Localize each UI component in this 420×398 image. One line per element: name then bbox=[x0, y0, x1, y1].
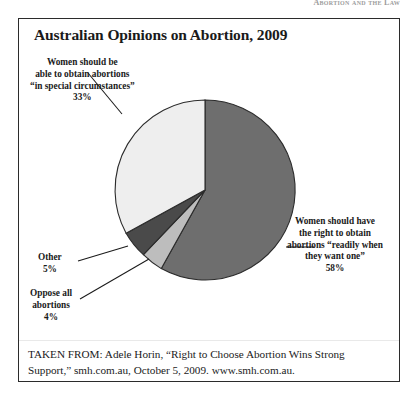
pie-label-special-line3: “in special circumstances” bbox=[30, 81, 135, 91]
pie-label-special-pct: 33% bbox=[30, 92, 135, 104]
pie-label-special-line1: Women should be bbox=[47, 57, 118, 67]
pie-slices bbox=[115, 100, 295, 280]
caption-divider bbox=[19, 340, 399, 341]
pie-label-oppose-line1: Oppose all bbox=[30, 288, 72, 298]
running-page-header: Abortion and the Law bbox=[313, 0, 400, 7]
pie-label-readily-pct: 58% bbox=[287, 263, 383, 275]
pie-label-other: Other 5% bbox=[38, 252, 62, 276]
leader-line-other bbox=[78, 246, 128, 261]
pie-label-readily-line2: the right to obtain bbox=[299, 228, 371, 238]
pie-label-other-pct: 5% bbox=[38, 264, 62, 276]
leader-line-oppose bbox=[80, 259, 149, 299]
pie-label-readily-line4: they want one” bbox=[305, 251, 365, 261]
pie-label-special-line2: able to obtain abortions bbox=[35, 69, 129, 79]
pie-label-oppose-pct: 4% bbox=[30, 312, 72, 324]
pie-label-readily-line3: abortions “readily when bbox=[287, 240, 383, 250]
pie-label-readily-line1: Women should have bbox=[295, 216, 375, 226]
pie-label-oppose-line2: abortions bbox=[32, 300, 70, 310]
figure-caption: TAKEN FROM: Adele Horin, “Right to Choos… bbox=[28, 347, 386, 379]
pie-label-special: Women should be able to obtain abortions… bbox=[30, 57, 135, 104]
pie-label-oppose: Oppose all abortions 4% bbox=[30, 288, 72, 323]
pie-label-readily: Women should have the right to obtain ab… bbox=[287, 216, 383, 275]
pie-label-other-line1: Other bbox=[38, 252, 62, 262]
